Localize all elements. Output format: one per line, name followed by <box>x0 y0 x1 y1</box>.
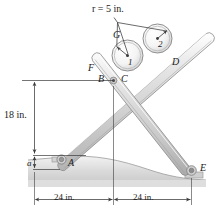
dim-18in-label: 18 in. <box>4 110 27 120</box>
radius-note-label: r = 5 in. <box>92 4 124 14</box>
diagram-svg <box>0 0 224 216</box>
dim-left-24in-label: 24 in. <box>54 193 75 202</box>
point-g-label: G <box>113 30 120 40</box>
dim-a-label: a <box>27 159 32 168</box>
point-d-label: D <box>172 57 179 67</box>
point-e-label: E <box>200 163 206 173</box>
point-b-label: B <box>98 74 104 84</box>
roller-1-label: 1 <box>128 58 133 67</box>
point-c-label: C <box>121 74 128 84</box>
pin-joint-a <box>57 155 66 164</box>
pin-joint-e <box>187 166 197 176</box>
dim-right-24in-label: 24 in. <box>133 193 154 202</box>
point-a-label: A <box>68 158 74 168</box>
roller-2-label: 2 <box>158 40 163 49</box>
dim-18in <box>22 81 113 156</box>
figure-canvas: r = 5 in. G 1 2 F B C D A E a 18 in. 24 … <box>0 0 224 216</box>
point-f-label: F <box>88 63 94 73</box>
